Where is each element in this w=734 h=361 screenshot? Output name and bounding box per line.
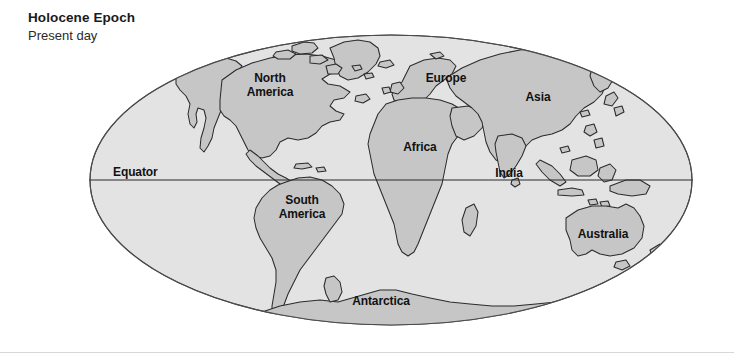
landmass-borneo: [570, 156, 598, 176]
landmass-caribbean-2: [316, 167, 326, 172]
landmass-australia: [566, 204, 644, 256]
world-map-graphic: [0, 0, 734, 361]
landmass-se-islet-a: [588, 199, 598, 205]
bottom-divider: [0, 352, 734, 353]
figure-canvas: Holocene Epoch Present day: [0, 0, 734, 361]
landmass-new-zealand-2: [659, 258, 674, 270]
landmass-java: [558, 188, 584, 196]
landmass-philippines-2: [594, 138, 604, 148]
world-map: North America Europe Asia Africa India S…: [0, 0, 734, 361]
